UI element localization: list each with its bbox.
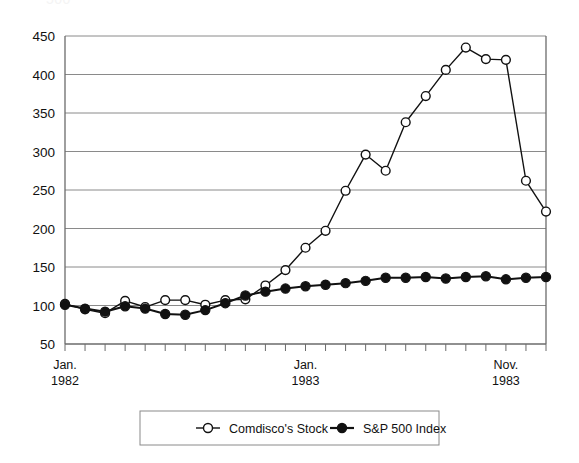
legend-marker-open-circle-icon — [204, 424, 213, 433]
data-point-19 — [441, 274, 450, 283]
data-point-14 — [341, 186, 350, 195]
data-point-6 — [181, 296, 190, 305]
data-point-15 — [361, 276, 370, 285]
data-point-12 — [301, 282, 310, 291]
data-point-13 — [321, 280, 330, 289]
data-point-16 — [381, 273, 390, 282]
y-axis-tick-label-300: 300 — [32, 145, 55, 160]
line-chart: 50100150200250300350400450 Jan.1982Jan.1… — [0, 0, 579, 463]
y-axis-tick-label-450: 450 — [32, 29, 55, 44]
data-point-5 — [161, 296, 170, 305]
data-point-18 — [421, 92, 430, 101]
data-point-24 — [541, 272, 550, 281]
data-point-5 — [161, 309, 170, 318]
y-axis-tick-label-400: 400 — [32, 68, 55, 83]
legend-marker-filled-circle-icon — [338, 424, 347, 433]
y-axis-labels-group: 50100150200250300350400450 — [32, 29, 55, 352]
data-point-8 — [221, 299, 230, 308]
data-point-11 — [281, 284, 290, 293]
x-axis-label-month-22: Nov. — [494, 358, 519, 372]
data-point-13 — [321, 226, 330, 235]
data-point-9 — [241, 291, 250, 300]
data-point-19 — [441, 65, 450, 74]
y-axis-tick-label-350: 350 — [32, 106, 55, 121]
data-point-2 — [100, 307, 109, 316]
data-point-21 — [481, 272, 490, 281]
data-point-24 — [542, 207, 551, 216]
data-point-1 — [80, 304, 89, 313]
data-point-16 — [381, 166, 390, 175]
x-axis-label-month-0: Jan. — [53, 358, 77, 372]
clipped-top-axis-label: 500 — [46, 0, 71, 7]
data-point-11 — [281, 266, 290, 275]
chart-background — [0, 0, 579, 463]
data-point-18 — [421, 272, 430, 281]
data-point-17 — [401, 273, 410, 282]
data-point-22 — [502, 55, 511, 64]
data-point-14 — [341, 279, 350, 288]
x-axis-label-year-12: 1983 — [292, 374, 320, 388]
legend-label-1: S&P 500 Index — [363, 422, 447, 436]
x-axis-label-month-12: Jan. — [294, 358, 318, 372]
data-point-20 — [461, 43, 470, 52]
data-point-3 — [121, 302, 130, 311]
y-axis-tick-label-150: 150 — [32, 260, 55, 275]
data-point-15 — [361, 150, 370, 159]
data-point-7 — [201, 306, 210, 315]
data-point-0 — [60, 300, 69, 309]
chart-legend: Comdisco's StockS&P 500 Index — [140, 411, 447, 445]
y-axis-tick-label-100: 100 — [32, 299, 55, 314]
chart-container: 500 50100150200250300350400450 Jan.1982J… — [0, 0, 579, 463]
data-point-6 — [181, 310, 190, 319]
legend-label-0: Comdisco's Stock — [229, 422, 329, 436]
x-axis-label-year-22: 1983 — [492, 374, 520, 388]
x-axis-label-year-0: 1982 — [51, 374, 79, 388]
data-point-20 — [461, 272, 470, 281]
data-point-10 — [261, 287, 270, 296]
y-axis-tick-label-200: 200 — [32, 222, 55, 237]
data-point-12 — [301, 243, 310, 252]
data-point-23 — [521, 273, 530, 282]
y-axis-tick-label-50: 50 — [40, 337, 55, 352]
data-point-4 — [141, 304, 150, 313]
data-point-21 — [481, 55, 490, 64]
data-point-23 — [522, 176, 531, 185]
data-point-22 — [501, 275, 510, 284]
data-point-17 — [401, 118, 410, 127]
y-axis-tick-label-250: 250 — [32, 183, 55, 198]
